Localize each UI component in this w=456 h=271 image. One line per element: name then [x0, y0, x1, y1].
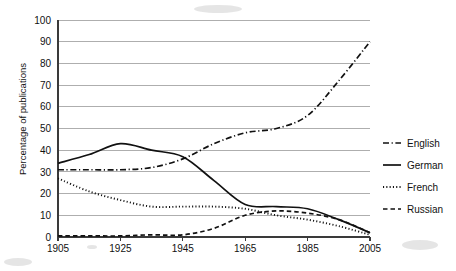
y-axis-tick-labels: 0102030405060708090100 [34, 15, 51, 243]
x-tick-label-1905: 1905 [47, 243, 70, 254]
x-tick-label-1945: 1945 [172, 243, 195, 254]
legend-item-russian[interactable]: Russian [383, 204, 443, 215]
legend-label-french: French [407, 182, 438, 193]
y-tick-label-100: 100 [34, 15, 51, 26]
y-tick-label-90: 90 [40, 36, 52, 47]
legend-label-russian: Russian [407, 204, 443, 215]
y-tick-label-30: 30 [40, 167, 52, 178]
y-tick-label-10: 10 [40, 210, 52, 221]
legend-item-english[interactable]: English [383, 138, 440, 149]
data-series-group [58, 42, 370, 236]
series-line-english [58, 42, 370, 170]
y-tick-label-20: 20 [40, 188, 52, 199]
scan-artifacts [4, 5, 438, 266]
y-tick-label-0: 0 [45, 232, 51, 243]
y-tick-label-80: 80 [40, 58, 52, 69]
legend-item-german[interactable]: German [383, 160, 443, 171]
chart-legend: EnglishGermanFrenchRussian [383, 138, 443, 215]
legend-label-german: German [407, 160, 443, 171]
y-tick-label-40: 40 [40, 145, 52, 156]
y-tick-label-50: 50 [40, 123, 52, 134]
chart-canvas: 0102030405060708090100 19051925194519651… [0, 0, 456, 271]
series-line-french [58, 178, 370, 234]
y-tick-label-70: 70 [40, 80, 52, 91]
x-tick-label-1985: 1985 [296, 243, 319, 254]
series-line-german [58, 144, 370, 233]
line-chart: 0102030405060708090100 19051925194519651… [0, 0, 456, 271]
legend-item-french[interactable]: French [383, 182, 438, 193]
x-axis-tick-labels: 190519251945196519852005 [47, 243, 382, 254]
x-tick-label-1925: 1925 [109, 243, 132, 254]
x-tick-label-1965: 1965 [234, 243, 257, 254]
y-tick-label-60: 60 [40, 101, 52, 112]
x-tick-label-2005: 2005 [359, 243, 382, 254]
legend-label-english: English [407, 138, 440, 149]
y-axis-title: Percentage of publications [17, 63, 28, 175]
gridlines [58, 20, 370, 215]
